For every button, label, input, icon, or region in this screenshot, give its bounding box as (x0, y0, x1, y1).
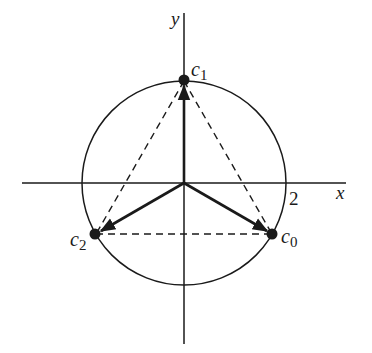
point-c2 (90, 229, 101, 240)
edge-c1-c2 (96, 81, 184, 234)
edge-c1-c0 (184, 81, 272, 234)
label-c2: c2 (70, 228, 86, 253)
x-axis-label: x (335, 182, 345, 203)
point-c1 (179, 75, 190, 86)
label-c1: c1 (191, 58, 207, 83)
tick-label-2: 2 (289, 188, 299, 209)
point-c0 (267, 229, 278, 240)
roots-of-unity-diagram: y x 2 c1 c0 c2 (0, 0, 372, 353)
y-axis-label: y (169, 8, 180, 29)
vector-c2 (101, 183, 184, 231)
label-c0: c0 (281, 225, 297, 250)
vector-c0 (184, 183, 267, 231)
